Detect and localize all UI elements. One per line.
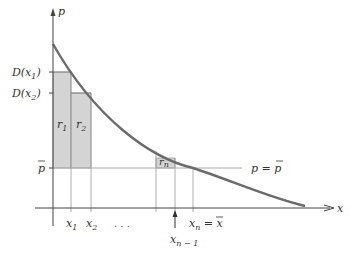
label-x1: x1 xyxy=(66,217,77,232)
label-xn-1: xn − 1 xyxy=(170,233,198,248)
label-p-bar: p xyxy=(38,162,45,175)
label-price-line: p = p xyxy=(251,162,281,175)
label-xn: xn = x xyxy=(189,217,224,232)
y-axis-label: p xyxy=(58,5,65,18)
up-arrow-icon xyxy=(173,210,178,217)
ellipsis: . . . xyxy=(114,218,130,229)
x-axis-label: x xyxy=(337,202,344,215)
consumer-surplus-diagram: p x D(x1) D(x2) p r1 r2 rn p = p x1 x2 .… xyxy=(0,0,362,258)
label-x2: x2 xyxy=(86,217,97,232)
y-axis-arrow-icon xyxy=(51,8,56,16)
label-d-x2: D(x2) xyxy=(11,87,41,102)
label-d-x1: D(x1) xyxy=(11,66,41,81)
